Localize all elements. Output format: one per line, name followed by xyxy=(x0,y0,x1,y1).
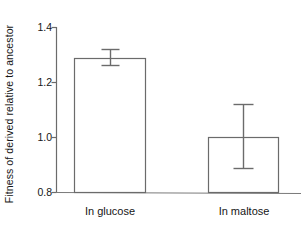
bar-in-glucose xyxy=(75,50,146,193)
x-tick-label-in-glucose: In glucose xyxy=(62,205,158,217)
bar-rect-in-glucose xyxy=(75,59,146,193)
x-tick-label-in-maltose: In maltose xyxy=(196,205,292,217)
plot-area xyxy=(0,0,307,234)
bar-in-maltose xyxy=(209,105,279,193)
fitness-bar-chart: Fitness of derived relative to ancestor … xyxy=(0,0,307,234)
